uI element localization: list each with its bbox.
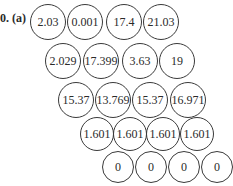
value-circle: 1.601 (113, 117, 147, 151)
value-circle: 0.001 (67, 4, 103, 40)
value-circle: 1.601 (146, 117, 180, 151)
value-circle: 2.029 (45, 43, 81, 79)
value-circle: 0 (102, 151, 134, 183)
value-circle: 0 (201, 151, 233, 183)
problem-label: 0. (a) (0, 11, 26, 26)
value-circle: 17.4 (106, 4, 142, 40)
value-circle: 13.769 (95, 82, 131, 118)
value-circle: 15.37 (58, 82, 94, 118)
value-circle: 16.971 (170, 82, 206, 118)
value-circle: 17.399 (83, 43, 119, 79)
value-circle: 2.03 (30, 4, 66, 40)
value-circle: 1.601 (180, 117, 214, 151)
value-circle: 1.601 (80, 117, 114, 151)
value-circle: 0 (168, 151, 200, 183)
value-circle: 15.37 (132, 82, 168, 118)
value-circle: 19 (159, 43, 195, 79)
value-circle: 3.63 (122, 43, 158, 79)
value-circle: 0 (135, 151, 167, 183)
value-circle: 21.03 (143, 4, 179, 40)
